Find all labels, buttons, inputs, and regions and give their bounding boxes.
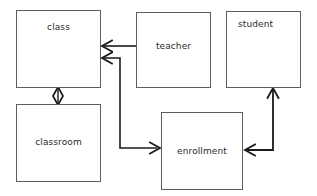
entity-label-teacher: teacher (137, 41, 210, 51)
entity-label-enrollment: enrollment (162, 146, 242, 156)
connector-teacher-to-class[interactable] (102, 41, 136, 52)
entity-box-student[interactable]: student (226, 11, 301, 88)
entity-box-teacher[interactable]: teacher (136, 12, 211, 88)
entity-label-student: student (238, 19, 273, 29)
entity-label-class: class (17, 22, 100, 32)
entity-box-enrollment[interactable]: enrollment (161, 112, 243, 190)
entity-box-classroom[interactable]: classroom (16, 104, 101, 182)
uml-class-diagram: class teacher student classroom enrollme… (0, 0, 317, 196)
entity-box-class[interactable]: class (16, 10, 101, 88)
connector-class-aggregates-classroom[interactable] (53, 87, 63, 105)
entity-label-classroom: classroom (17, 137, 100, 147)
connector-student-enrollment[interactable] (245, 88, 279, 156)
